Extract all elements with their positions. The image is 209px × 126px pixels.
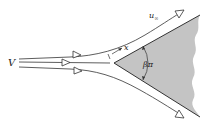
arrow-icon <box>175 110 184 118</box>
edge-velocity-label: u∞ <box>149 11 158 21</box>
arrow-icon <box>74 67 82 74</box>
arrow-icon <box>175 10 184 18</box>
arrow-icon <box>118 48 122 51</box>
freestream-velocity-label: V <box>8 57 17 68</box>
wedge-body <box>114 15 200 117</box>
coordinate-x-label: x <box>124 43 129 52</box>
arrow-icon <box>62 59 70 66</box>
wedge-angle-label: βπ <box>142 60 154 69</box>
wedge-flow-diagram: V u∞ x βπ <box>0 0 209 126</box>
x-origin-tick <box>108 54 110 59</box>
